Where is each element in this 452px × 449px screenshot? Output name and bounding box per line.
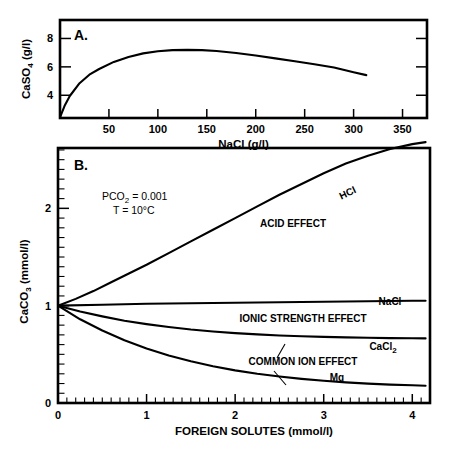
panel-a-xtick-label: 250 <box>295 123 313 135</box>
panel-b-annotation-common-ion: COMMON ION EFFECT <box>249 356 358 367</box>
panel-b-ytick-label: 2 <box>45 202 51 214</box>
panel-a-xtick-label: 100 <box>149 123 167 135</box>
panel-a-xtick-label: 350 <box>393 123 411 135</box>
panel-b-annotation-acid-effect: ACID EFFECT <box>260 218 326 229</box>
panel-a-xtick-label: 200 <box>247 123 265 135</box>
panel-b-ytick-label: 1 <box>45 300 51 312</box>
panel-b-xtick-label: 0 <box>55 409 61 421</box>
panel-b-xaxis-label: FOREIGN SOLUTES (mmol/l) <box>175 425 333 437</box>
panel-b-xtick-label: 2 <box>232 409 238 421</box>
figure-svg: 46850100150200250300350A.NaCl (g/l)CaSO4… <box>0 0 452 449</box>
panel-b-ytick-label: 0 <box>45 397 51 409</box>
panel-b-label-nacl: NaCl <box>379 296 402 307</box>
panel-a-ytick-label: 6 <box>47 61 53 73</box>
panel-a-yaxis-label: CaSO4 (g/l) <box>20 39 35 99</box>
panel-a-xtick-label: 50 <box>103 123 115 135</box>
panel-b-curve-hcl <box>58 142 426 306</box>
panel-b-xtick-label: 3 <box>321 409 327 421</box>
panel-a-xtick-label: 300 <box>344 123 362 135</box>
panel-b-xtick-label: 4 <box>409 409 416 421</box>
panel-a-xtick-label: 150 <box>198 123 216 135</box>
panel-b-xtick-label: 1 <box>144 409 150 421</box>
panel-b-condition-temp: T = 10°C <box>113 204 155 216</box>
figure-container: 46850100150200250300350A.NaCl (g/l)CaSO4… <box>0 0 452 449</box>
panel-a-ytick-label: 8 <box>47 32 53 44</box>
panel-b-letter: B. <box>74 157 88 173</box>
panel-a-letter: A. <box>74 27 88 43</box>
panel-b-frame <box>58 148 430 403</box>
panel-a-ytick-label: 4 <box>47 89 54 101</box>
panel-b-annotation-ionic-strength: IONIC STRENGTH EFFECT <box>239 313 366 324</box>
panel-b-label-cacl2: CaCl2 <box>369 341 397 355</box>
panel-b-label-hcl: HCl <box>337 184 357 201</box>
panel-b-curve-nacl <box>58 301 426 306</box>
panel-b-condition-pco2: PCO2 = 0.001 <box>102 190 168 205</box>
panel-b-label-mg: Mg <box>330 372 344 383</box>
panel-a-frame <box>60 20 427 118</box>
panel-b-yaxis-label: CaCO3 (mmol/l) <box>18 239 33 323</box>
panel-a-curve-caso4 <box>60 50 366 117</box>
